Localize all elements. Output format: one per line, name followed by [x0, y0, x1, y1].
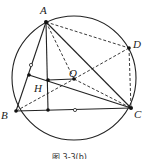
midpoint-BC	[73, 108, 76, 111]
geometry-diagram: A B C D O H 图 3-3(b)	[0, 0, 147, 159]
dashed-OC	[74, 79, 131, 108]
point-A	[44, 20, 48, 24]
label-C: C	[134, 108, 142, 120]
label-A: A	[39, 4, 47, 16]
point-B	[14, 109, 18, 113]
point-foot-AB	[27, 73, 31, 77]
midpoint-AB	[29, 63, 32, 66]
altitude-C	[29, 75, 131, 108]
point-D	[127, 46, 131, 50]
label-B: B	[1, 109, 8, 121]
dashed-DO	[74, 48, 129, 79]
segment-HO	[48, 79, 74, 80]
point-C	[129, 106, 133, 110]
figure-caption: 图 3-3(b)	[52, 153, 87, 159]
dashed-DC	[129, 48, 131, 108]
label-H: H	[33, 82, 43, 94]
point-H	[46, 78, 50, 82]
label-O: O	[69, 67, 77, 79]
point-foot-BC	[46, 108, 50, 112]
label-D: D	[132, 38, 141, 50]
altitude-A	[46, 22, 48, 110]
